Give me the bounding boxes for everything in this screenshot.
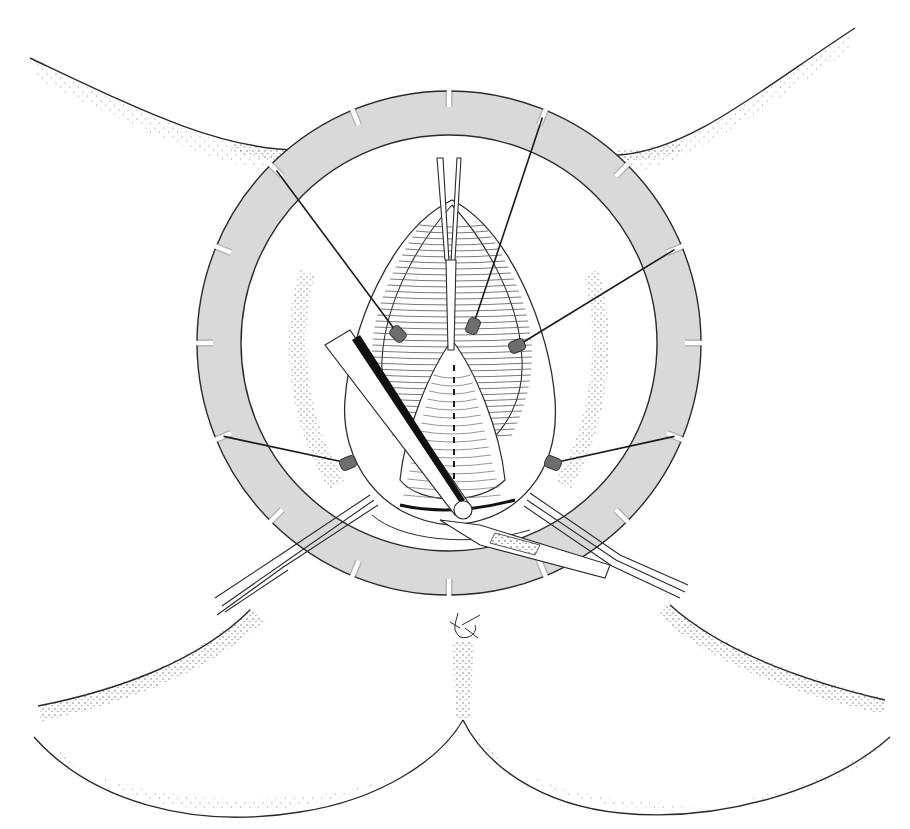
surgical-illustration bbox=[0, 0, 910, 829]
right-thigh-contour bbox=[670, 605, 885, 700]
anus bbox=[450, 613, 480, 638]
illustration-canvas: Ring retractor with elastic stay hooks e… bbox=[0, 0, 910, 829]
lower-body-stipple bbox=[40, 603, 884, 811]
right-buttock-contour bbox=[463, 720, 890, 815]
